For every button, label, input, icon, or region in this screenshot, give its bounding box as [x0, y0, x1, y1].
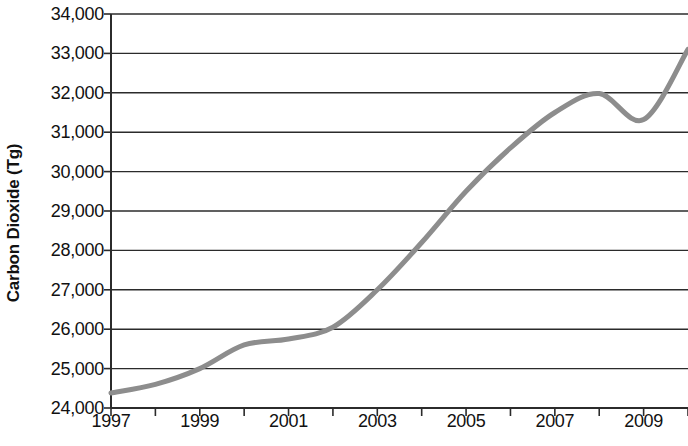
- y-tick-label: 27,000: [51, 279, 104, 300]
- line-chart: Carbon Dioxide (Tg) 24,00025,00026,00027…: [0, 0, 688, 446]
- data-series-group: [111, 49, 688, 393]
- series-line-0: [111, 49, 688, 393]
- x-tick-label: 2009: [624, 411, 663, 432]
- plot-svg: [111, 14, 688, 408]
- y-tick-label: 26,000: [51, 319, 104, 340]
- x-axis-tick-labels: 1997199920012003200520072009: [0, 411, 688, 446]
- plot-area: [111, 14, 688, 408]
- y-tick-label: 30,000: [51, 161, 104, 182]
- x-tick-label: 1999: [180, 411, 219, 432]
- axis-ticks: [104, 14, 688, 416]
- x-tick-label: 2001: [269, 411, 308, 432]
- x-tick-label: 2007: [535, 411, 574, 432]
- x-tick-label: 2003: [358, 411, 397, 432]
- y-axis-title: Carbon Dioxide (Tg): [0, 0, 28, 446]
- y-tick-label: 34,000: [51, 4, 104, 25]
- gridlines: [111, 14, 688, 408]
- y-tick-label: 28,000: [51, 240, 104, 261]
- y-tick-label: 25,000: [51, 358, 104, 379]
- y-tick-label: 33,000: [51, 43, 104, 64]
- y-tick-label: 31,000: [51, 122, 104, 143]
- y-axis-tick-labels: 24,00025,00026,00027,00028,00029,00030,0…: [28, 0, 104, 446]
- y-tick-label: 29,000: [51, 201, 104, 222]
- x-tick-label: 1997: [92, 411, 131, 432]
- y-tick-label: 32,000: [51, 82, 104, 103]
- x-tick-label: 2005: [447, 411, 486, 432]
